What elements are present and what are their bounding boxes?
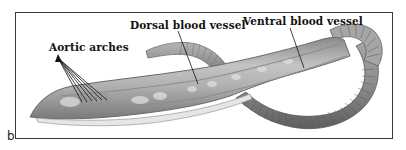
label-aortic-arches: Aortic arches (49, 42, 129, 53)
label-dorsal-blood-vessel: Dorsal blood vessel (130, 20, 246, 31)
label-ventral-blood-vessel: Ventral blood vessel (243, 16, 363, 27)
panel-letter: b (7, 130, 15, 142)
